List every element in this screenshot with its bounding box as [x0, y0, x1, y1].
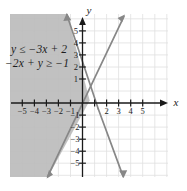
- y-tick-label: −4: [70, 146, 80, 156]
- y-tick-label: 2: [74, 62, 78, 72]
- x-tick-label: −3: [42, 106, 51, 116]
- y-tick-label: −2: [70, 122, 79, 132]
- x-tick-label: 4: [129, 106, 134, 116]
- x-tick-label: 3: [116, 106, 120, 116]
- inequality-annotations: y ≤ −3x + 2 −2x + y ≥ −1: [11, 43, 69, 70]
- y-tick-label: −5: [70, 158, 79, 168]
- y-tick-label: 5: [74, 26, 78, 36]
- x-tick-label: −2: [54, 106, 63, 116]
- y-axis-label: y: [86, 4, 92, 16]
- x-tick-label: −4: [30, 106, 40, 116]
- x-tick-label: −5: [18, 106, 27, 116]
- y-tick-label: 3: [74, 50, 78, 60]
- x-tick-label: 5: [141, 106, 145, 116]
- y-tick-label: 1: [74, 74, 78, 84]
- x-tick-label: 2: [104, 106, 108, 116]
- y-tick-label: −3: [70, 134, 79, 144]
- inequality-graph-figure: −5 −4 −3 −2 −1 2 3 4 5 5 4 3 2 1 −1 −2 −…: [0, 0, 187, 191]
- inequality-line-2: −2x + y ≥ −1: [5, 57, 69, 71]
- coordinate-plane: −5 −4 −3 −2 −1 2 3 4 5 5 4 3 2 1 −1 −2 −…: [0, 0, 187, 191]
- x-axis-label: x: [173, 96, 179, 108]
- y-tick-label: −1: [70, 110, 79, 120]
- inequality-line-1: y ≤ −3x + 2: [11, 43, 69, 57]
